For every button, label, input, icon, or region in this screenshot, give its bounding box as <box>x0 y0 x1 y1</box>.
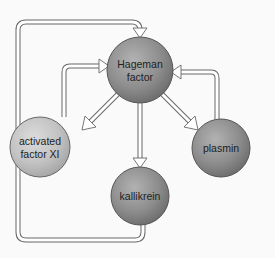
arrow-hageman-to-plasmin <box>160 92 198 130</box>
arrow-hageman-to-kallikrein <box>133 103 147 168</box>
arrow-hageman-to-factorxi <box>82 92 120 130</box>
node-label: plasmin <box>203 142 239 154</box>
node-label: factor XI <box>20 148 59 160</box>
node-label: kallikrein <box>120 190 161 202</box>
node-label: factor <box>127 71 154 83</box>
node-plasmin: plasmin <box>192 119 250 177</box>
node-hageman-factor: Hageman factor <box>107 37 173 103</box>
node-label: activated <box>19 135 61 147</box>
node-label: Hageman <box>117 58 163 70</box>
node-activated-factor-xi: activated factor XI <box>10 117 70 177</box>
coagulation-diagram: Hageman factor activated factor XI plasm… <box>0 0 275 258</box>
node-kallikrein: kallikrein <box>111 167 169 225</box>
